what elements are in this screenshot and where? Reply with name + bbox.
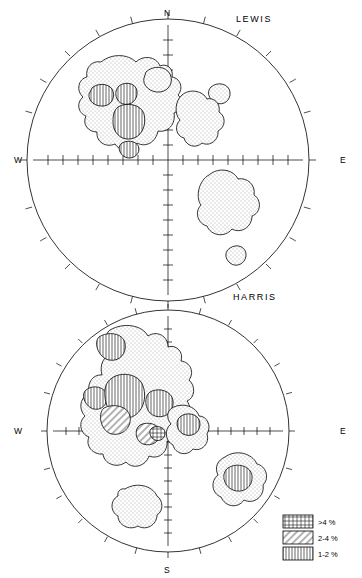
panel-title-lewis: LEWIS bbox=[236, 14, 272, 24]
panel-lewis: LEWIS N W E bbox=[14, 8, 346, 308]
contour-region-harris-southeast bbox=[213, 453, 267, 506]
legend-swatch-1to2 bbox=[283, 547, 313, 560]
contour-region-lewis-southeast-small bbox=[226, 246, 246, 265]
axes-lewis bbox=[33, 25, 303, 295]
label-east-lewis: E bbox=[340, 155, 346, 165]
legend-swatch-gt4 bbox=[283, 515, 313, 528]
legend-label-1to2: 1-2 % bbox=[318, 550, 338, 559]
legend-label-gt4: >4 % bbox=[318, 518, 336, 527]
label-east-harris: E bbox=[340, 426, 346, 436]
contour-region-lewis-southeast bbox=[197, 170, 259, 235]
legend: >4 % 2-4 % 1-2 % bbox=[283, 515, 338, 560]
label-south-harris: S bbox=[164, 565, 170, 575]
label-west-harris: W bbox=[14, 426, 23, 436]
legend-label-2to4: 2-4 % bbox=[318, 534, 338, 543]
label-north-lewis: N bbox=[164, 8, 171, 18]
legend-swatch-2to4 bbox=[283, 531, 313, 544]
panel-title-harris: HARRIS bbox=[233, 292, 277, 302]
contour-region-harris-south bbox=[112, 485, 162, 528]
stereonet-figure: LEWIS N W E bbox=[0, 0, 362, 578]
contour-region-harris-east-lobe bbox=[166, 405, 209, 453]
contour-region-lewis-north bbox=[144, 67, 172, 92]
